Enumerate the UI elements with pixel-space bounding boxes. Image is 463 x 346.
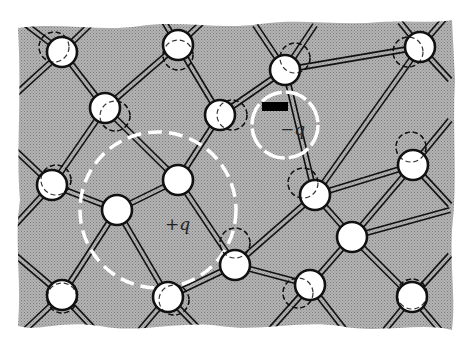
crystal-lattice-diagram: +q −q	[0, 0, 463, 346]
atom	[90, 93, 120, 123]
atom	[397, 282, 427, 312]
lattice-svg: +q −q	[0, 0, 463, 346]
atom	[102, 195, 132, 225]
atom	[163, 165, 193, 195]
atom	[205, 100, 235, 130]
atom	[153, 282, 183, 312]
positive-charge-label: +q	[165, 214, 190, 234]
atom	[300, 180, 330, 210]
atom	[47, 280, 77, 310]
negative-charge-label: −q	[280, 119, 305, 139]
atom	[405, 32, 435, 62]
atom	[47, 37, 77, 67]
atom	[270, 55, 300, 85]
electron-marker-bar	[262, 102, 288, 111]
atom	[337, 222, 367, 252]
